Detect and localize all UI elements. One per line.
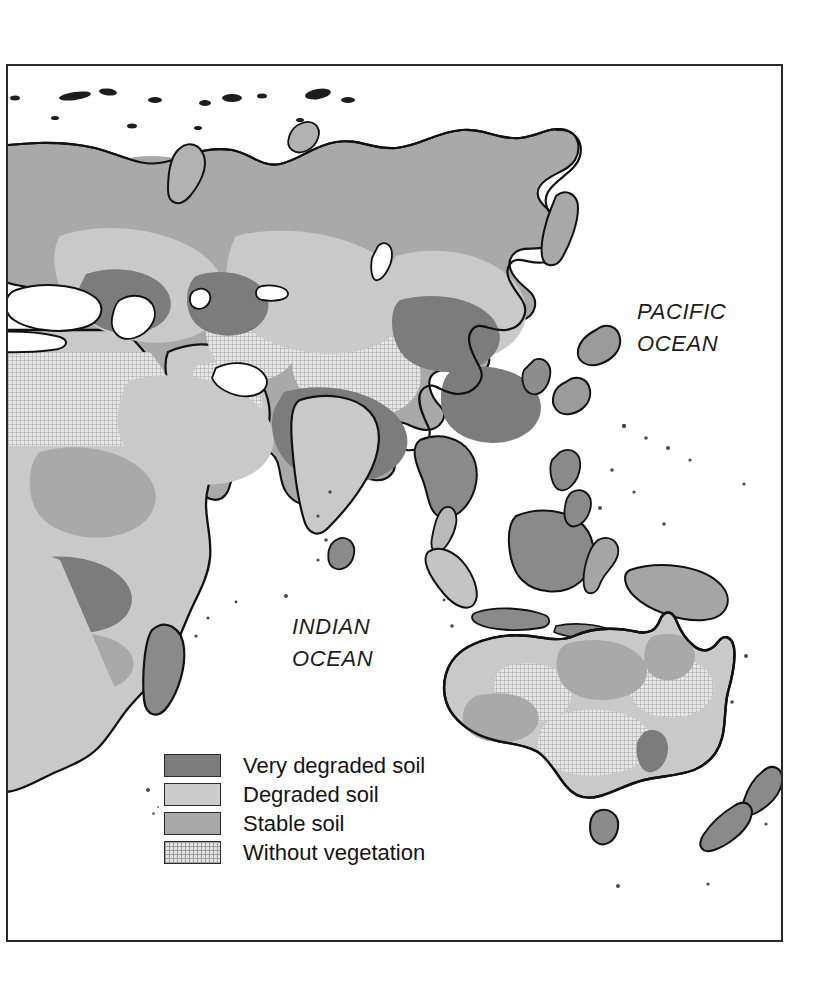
legend-row-without-vegetation: Without vegetation <box>164 839 425 866</box>
legend-row-degraded-soil: Degraded soil <box>164 781 425 808</box>
without-vegetation-swatch <box>164 841 221 864</box>
australia <box>444 613 734 845</box>
legend-row-stable-soil: Stable soil <box>164 810 425 837</box>
legend-label-without-vegetation: Without vegetation <box>243 842 425 864</box>
very-degraded-soil-swatch <box>164 754 221 777</box>
india <box>291 396 379 569</box>
madagascar <box>143 625 184 715</box>
map-legend: Very degraded soil Degraded soil Stable … <box>164 752 425 868</box>
map-page: PACIFIC OCEAN INDIAN OCEAN Very degraded… <box>0 0 835 1002</box>
southeast-asia <box>415 436 728 640</box>
pacific-ocean-label: PACIFIC OCEAN <box>637 296 726 360</box>
stable-soil-swatch <box>164 812 221 835</box>
legend-label-stable-soil: Stable soil <box>243 813 345 835</box>
new-zealand <box>700 767 782 851</box>
indian-ocean-label: INDIAN OCEAN <box>292 611 373 675</box>
print-speck <box>157 806 159 808</box>
print-speck <box>152 812 155 815</box>
legend-label-degraded-soil: Degraded soil <box>243 784 379 806</box>
legend-row-very-degraded-soil: Very degraded soil <box>164 752 425 779</box>
legend-label-very-degraded-soil: Very degraded soil <box>243 755 425 777</box>
degraded-soil-swatch <box>164 783 221 806</box>
